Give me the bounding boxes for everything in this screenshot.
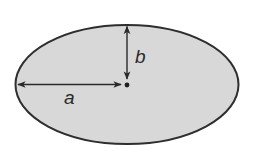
semi-minor-axis-label: b <box>135 46 146 67</box>
ellipse-diagram: a b <box>0 0 255 156</box>
semi-major-axis-label: a <box>64 87 75 108</box>
center-point <box>125 83 130 88</box>
